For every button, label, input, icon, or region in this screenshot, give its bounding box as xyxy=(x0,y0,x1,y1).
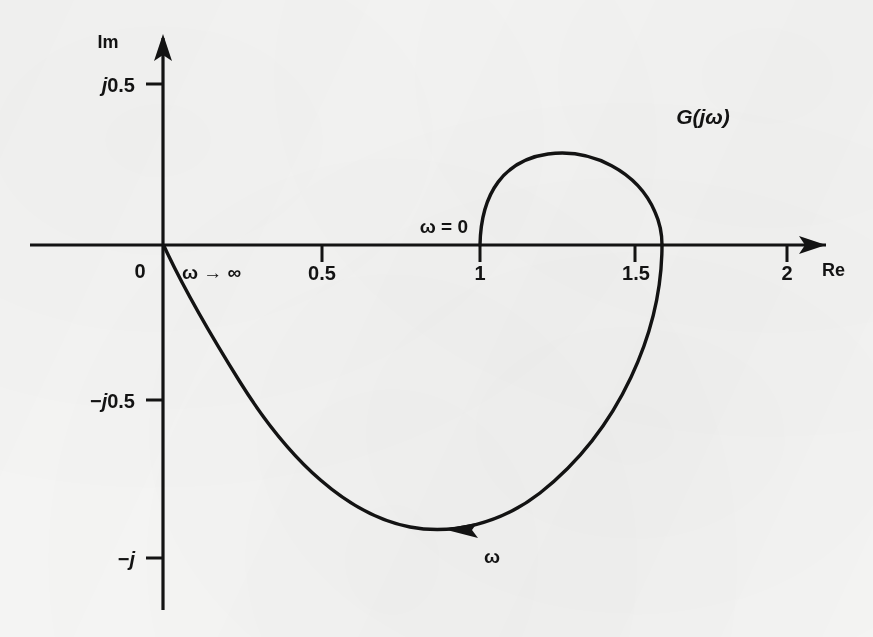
tick-label-im-j0.5: j0.5 xyxy=(99,74,135,96)
omega-equals-zero-label: ω = 0 xyxy=(420,216,468,237)
tick-label-re-0.5: 0.5 xyxy=(308,262,336,284)
tick-label-re-1: 1 xyxy=(474,262,485,284)
tick-label-im-neg-j0.5: −j0.5 xyxy=(90,390,135,412)
tick-marks-group xyxy=(146,84,787,558)
omega-direction-label: ω xyxy=(484,546,500,567)
tick-label-re-2: 2 xyxy=(781,262,792,284)
origin-label: 0 xyxy=(134,260,145,282)
tick-label-im-neg-j: −j xyxy=(118,548,136,570)
nyquist-plot-svg: Im Re 0 0.5 1 1.5 2 j0.5 −j0.5 −j ω = 0 … xyxy=(0,0,873,637)
nyquist-figure: Im Re 0 0.5 1 1.5 2 j0.5 −j0.5 −j ω = 0 … xyxy=(0,0,873,637)
nyquist-curve-group xyxy=(164,153,662,538)
tick-label-im-neg-j0.5-num: 0.5 xyxy=(107,390,135,412)
tick-label-im-neg-j-sign: − xyxy=(118,548,130,570)
tick-label-im-j0.5-num: 0.5 xyxy=(107,74,135,96)
nyquist-curve-lower-loop xyxy=(164,245,662,530)
real-axis-label: Re xyxy=(822,260,845,280)
tick-label-re-1.5: 1.5 xyxy=(622,262,650,284)
tick-label-im-neg-j0.5-sign: − xyxy=(90,390,102,412)
imaginary-axis-label: Im xyxy=(97,32,118,52)
nyquist-curve-upper-loop xyxy=(480,153,662,245)
transfer-function-label: G(jω) xyxy=(676,105,730,128)
omega-to-infinity-label: ω → ∞ xyxy=(182,262,241,283)
